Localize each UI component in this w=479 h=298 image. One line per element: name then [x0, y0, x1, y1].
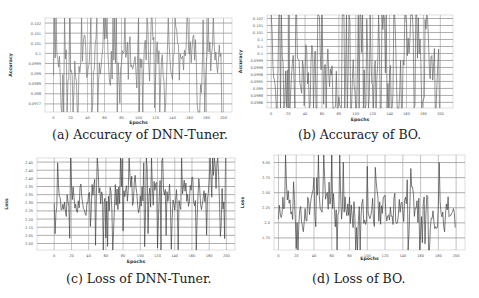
- x-tick-label: 80: [347, 254, 352, 258]
- y-tick-label: 2.20: [25, 218, 34, 222]
- y-axis-label: Accuracy: [238, 50, 243, 73]
- y-axis-label: Loss: [4, 198, 9, 210]
- y-tick-label: 0.1: [257, 45, 263, 49]
- x-tick-label: 160: [186, 116, 194, 120]
- x-tick-label: 60: [320, 112, 325, 116]
- x-tick-label: 200: [453, 254, 461, 258]
- x-tick-label: 20: [294, 254, 299, 258]
- chart-panel-c: 2.452.402.402.352.352.302.252.202.152.05…: [0, 150, 240, 298]
- caption-b: (b) Accuracy of BO.: [298, 127, 421, 142]
- x-tick-label: 180: [203, 116, 211, 120]
- y-tick-label: 0.102: [253, 17, 263, 21]
- y-tick-label: 0.101: [253, 31, 263, 35]
- x-tick-label: 60: [102, 116, 107, 120]
- chart-panel-b: 0.1020.1010.1010.10.10.10.09990.09980.09…: [240, 0, 479, 150]
- y-tick-label: 0.099: [253, 87, 264, 91]
- y-tick-label: 2.25: [25, 209, 33, 213]
- y-tick-label: 0.1: [257, 52, 263, 56]
- x-tick-label: 160: [189, 254, 197, 258]
- y-tick-label: 2.0: [264, 221, 270, 225]
- x-tick-label: 200: [220, 116, 228, 120]
- x-tick-label: 140: [386, 112, 394, 116]
- y-tick-label: 2.35: [25, 193, 33, 197]
- x-tick-label: 160: [417, 254, 425, 258]
- y-tick-label: 2.30: [25, 201, 34, 205]
- x-tick-label: 180: [435, 254, 443, 258]
- x-tick-label: 140: [169, 116, 177, 120]
- y-tick-label: 0.099: [31, 72, 42, 76]
- x-tick-label: 40: [85, 116, 90, 120]
- x-tick-label: 80: [121, 254, 126, 258]
- x-tick-label: 200: [437, 112, 445, 116]
- caption-a: (a) Accuracy of DNN-Tuner.: [52, 127, 228, 142]
- x-tick-label: 160: [403, 112, 411, 116]
- x-tick-label: 120: [382, 254, 390, 258]
- y-tick-label: 2.15: [25, 226, 33, 230]
- x-tick-label: 120: [369, 112, 377, 116]
- y-tick-label: 2.00: [25, 242, 34, 246]
- x-tick-label: 140: [171, 254, 179, 258]
- y-tick-label: 0.0977: [28, 102, 41, 106]
- x-tick-label: 60: [329, 254, 334, 258]
- x-tick-label: 40: [303, 112, 308, 116]
- x-tick-label: 40: [86, 254, 91, 258]
- y-tick-label: 2.45: [25, 161, 33, 165]
- caption-d: (d) Loss of BO.: [312, 271, 405, 286]
- y-tick-label: 2.50: [262, 191, 271, 195]
- y-tick-label: 0.1: [35, 52, 41, 56]
- y-tick-label: 0.0996: [250, 73, 263, 77]
- x-tick-label: 40: [312, 254, 317, 258]
- y-tick-label: 0.1: [257, 38, 263, 42]
- y-tick-label: 0.101: [31, 32, 41, 36]
- y-tick-label: 0.0998: [250, 66, 263, 70]
- y-tick-label: 2.75: [262, 176, 270, 180]
- x-tick-label: 0: [270, 112, 273, 116]
- x-axis-label: Epochs: [360, 256, 379, 261]
- x-tick-label: 140: [399, 254, 407, 258]
- y-tick-label: 0.102: [31, 22, 41, 26]
- y-tick-label: 0.0986: [250, 101, 263, 105]
- caption-c: (c) Loss of DNN-Tuner.: [66, 271, 212, 286]
- x-tick-label: 20: [68, 116, 73, 120]
- x-tick-label: 20: [286, 112, 291, 116]
- y-tick-label: 2.40: [25, 177, 34, 181]
- x-tick-label: 180: [206, 254, 214, 258]
- x-tick-label: 120: [154, 254, 162, 258]
- y-tick-label: 0.098: [31, 92, 42, 96]
- y-tick-label: 0.0999: [28, 62, 41, 66]
- y-tick-label: 2.25: [262, 206, 270, 210]
- y-tick-label: 1.75: [262, 236, 270, 240]
- y-axis-label: Accuracy: [8, 53, 13, 76]
- chart-panel-d: 3.002.752.502.252.01.7502040608010012014…: [240, 150, 479, 298]
- chart-panel-a: 0.1020.1010.1010.10.09990.0990.09890.098…: [0, 0, 240, 150]
- plot-area: [274, 155, 465, 250]
- x-tick-label: 100: [137, 254, 145, 258]
- y-tick-label: 2.40: [25, 169, 34, 173]
- y-axis-label: Loss: [240, 196, 245, 208]
- x-tick-label: 200: [223, 254, 231, 258]
- x-axis-label: Epochs: [127, 259, 146, 264]
- y-tick-label: 0.101: [253, 24, 263, 28]
- x-tick-label: 0: [52, 116, 55, 120]
- x-axis-label: Epochs: [351, 117, 370, 122]
- y-tick-label: 3.00: [262, 161, 271, 165]
- x-tick-label: 0: [53, 254, 56, 258]
- y-tick-label: 0.0989: [28, 82, 41, 86]
- y-tick-label: 2.05: [25, 234, 33, 238]
- x-tick-label: 20: [69, 254, 74, 258]
- x-axis-label: Epochs: [129, 120, 148, 125]
- x-tick-label: 0: [277, 254, 280, 258]
- x-tick-label: 100: [352, 112, 360, 116]
- y-tick-label: 0.0988: [250, 94, 263, 98]
- x-tick-label: 120: [152, 116, 160, 120]
- x-tick-label: 60: [104, 254, 109, 258]
- y-tick-label: 0.0995: [250, 80, 263, 84]
- y-tick-label: 0.0999: [250, 59, 263, 63]
- x-tick-label: 80: [119, 116, 124, 120]
- x-tick-label: 80: [337, 112, 342, 116]
- y-tick-label: 0.101: [31, 42, 41, 46]
- x-tick-label: 180: [420, 112, 428, 116]
- y-tick-label: 2.35: [25, 185, 33, 189]
